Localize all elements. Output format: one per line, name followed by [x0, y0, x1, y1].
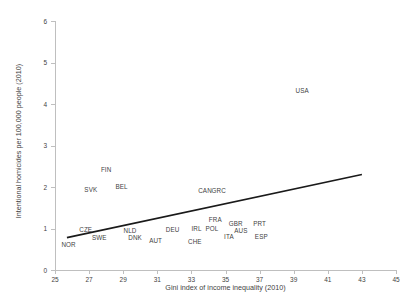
x-tick-41	[328, 270, 329, 274]
x-tick-45	[396, 270, 397, 274]
data-point-esp: ESP	[255, 232, 268, 239]
data-point-aus: AUS	[234, 226, 247, 233]
x-tick-label-35: 35	[216, 276, 236, 283]
data-point-svk: SVK	[84, 186, 97, 193]
data-point-fin: FIN	[101, 166, 111, 173]
data-point-can: CAN	[198, 186, 212, 193]
x-tick-27	[89, 270, 90, 274]
data-point-bel: BEL	[115, 182, 127, 189]
scatter-chart-figure: 0123456 Intentional homicides per 100,00…	[0, 0, 412, 302]
x-tick-33	[191, 270, 192, 274]
x-tick-35	[226, 270, 227, 274]
data-point-usa: USA	[296, 87, 309, 94]
x-tick-label-25: 25	[45, 276, 65, 283]
data-point-grc: GRC	[212, 186, 226, 193]
plot-area: NORCZESWESVKFINBELNLDDNKAUTDEUCHEIRLPOLF…	[55, 21, 396, 270]
data-point-prt: PRT	[253, 220, 266, 227]
data-point-aut: AUT	[149, 236, 162, 243]
x-tick-37	[260, 270, 261, 274]
data-point-swe: SWE	[92, 233, 107, 240]
x-tick-label-37: 37	[250, 276, 270, 283]
data-point-ita: ITA	[224, 232, 234, 239]
data-point-che: CHE	[188, 237, 202, 244]
x-tick-29	[123, 270, 124, 274]
data-point-cze: CZE	[79, 226, 92, 233]
x-tick-25	[55, 270, 56, 274]
y-tick-label-6: 6	[33, 18, 47, 25]
y-tick-label-5: 5	[33, 59, 47, 66]
y-tick-label-3: 3	[33, 142, 47, 149]
y-tick-label-1: 1	[33, 225, 47, 232]
y-axis-title: Intentional homicides per 100,000 people…	[15, 41, 23, 241]
x-tick-label-45: 45	[386, 276, 406, 283]
data-point-irl: IRL	[191, 224, 201, 231]
x-tick-label-27: 27	[79, 276, 99, 283]
x-tick-31	[157, 270, 158, 274]
x-tick-label-39: 39	[284, 276, 304, 283]
data-point-deu: DEU	[166, 226, 180, 233]
x-tick-label-41: 41	[318, 276, 338, 283]
x-tick-label-33: 33	[181, 276, 201, 283]
x-tick-label-43: 43	[352, 276, 372, 283]
x-tick-label-29: 29	[113, 276, 133, 283]
y-tick-label-4: 4	[33, 101, 47, 108]
x-tick-39	[294, 270, 295, 274]
data-point-fra: FRA	[209, 215, 222, 222]
data-point-pol: POL	[205, 224, 218, 231]
data-point-nld: NLD	[124, 227, 137, 234]
data-point-nor: NOR	[61, 241, 75, 248]
x-axis-title: Gini index of income inequality (2010)	[55, 284, 396, 292]
y-tick-label-0: 0	[33, 267, 47, 274]
y-tick-label-2: 2	[33, 184, 47, 191]
data-point-dnk: DNK	[128, 234, 142, 241]
x-tick-43	[362, 270, 363, 274]
x-tick-label-31: 31	[147, 276, 167, 283]
